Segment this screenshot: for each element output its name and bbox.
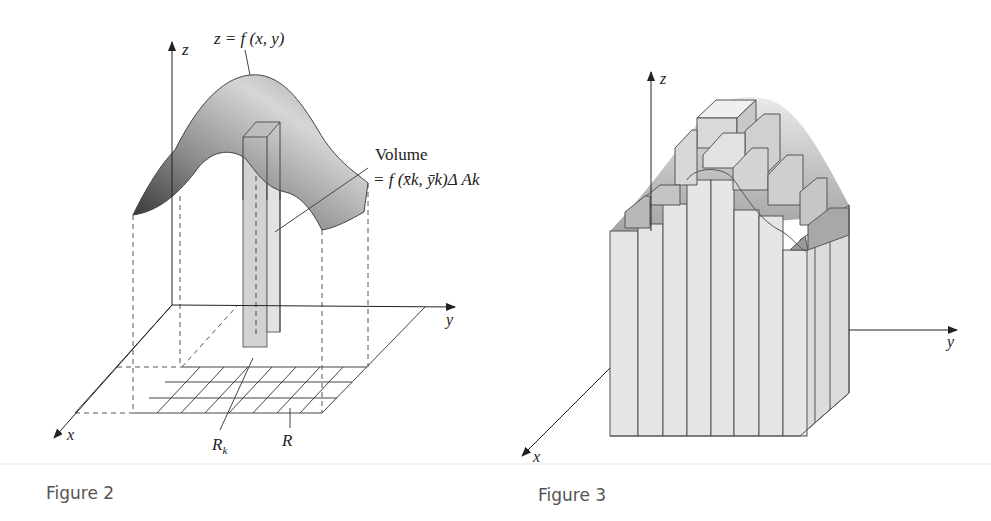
x-axis bbox=[522, 368, 610, 456]
volume-label-line2: = f (x̄k, ȳk)Δ Ak bbox=[373, 170, 480, 189]
region-label: R bbox=[281, 431, 293, 450]
y-axis-label: y bbox=[945, 333, 955, 351]
figure-2 bbox=[54, 42, 455, 438]
figure-3-caption: Figure 3 bbox=[538, 485, 606, 505]
x-axis bbox=[54, 305, 172, 438]
subregion-label: Rk bbox=[211, 435, 228, 456]
surface-label: z = f (x, y) bbox=[213, 29, 285, 48]
x-axis-label: x bbox=[66, 426, 74, 443]
y-axis-label: y bbox=[444, 311, 454, 329]
z-axis-label: z bbox=[181, 40, 189, 59]
volume-label-line1: Volume bbox=[375, 145, 428, 164]
y-axis bbox=[172, 305, 455, 307]
figures-canvas: z = f (x, y) z Volume = f (x̄k, ȳk)Δ Ak … bbox=[0, 0, 991, 521]
figure-3 bbox=[522, 72, 957, 456]
figure-2-caption: Figure 2 bbox=[46, 483, 114, 503]
caption-divider bbox=[0, 463, 991, 465]
z-axis-label: z bbox=[659, 70, 667, 87]
